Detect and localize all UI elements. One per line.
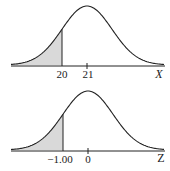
axis-label-z: Z — [157, 151, 164, 165]
x-distribution-chart: 20 21 X — [11, 6, 165, 81]
normal-curve-x — [11, 6, 164, 64]
mean-label-z: 0 — [85, 153, 91, 165]
normal-distribution-diagram: 20 21 X −1.00 0 Z — [0, 0, 170, 171]
axis-label-x: X — [154, 67, 163, 81]
shaded-left-tail-z — [11, 114, 63, 150]
boundary-label-x: 20 — [57, 68, 69, 80]
boundary-label-z: −1.00 — [47, 153, 73, 165]
z-distribution-chart: −1.00 0 Z — [11, 91, 165, 165]
shaded-left-tail-x — [11, 29, 62, 65]
mean-label-x: 21 — [83, 68, 94, 80]
normal-curve-z — [11, 91, 164, 149]
